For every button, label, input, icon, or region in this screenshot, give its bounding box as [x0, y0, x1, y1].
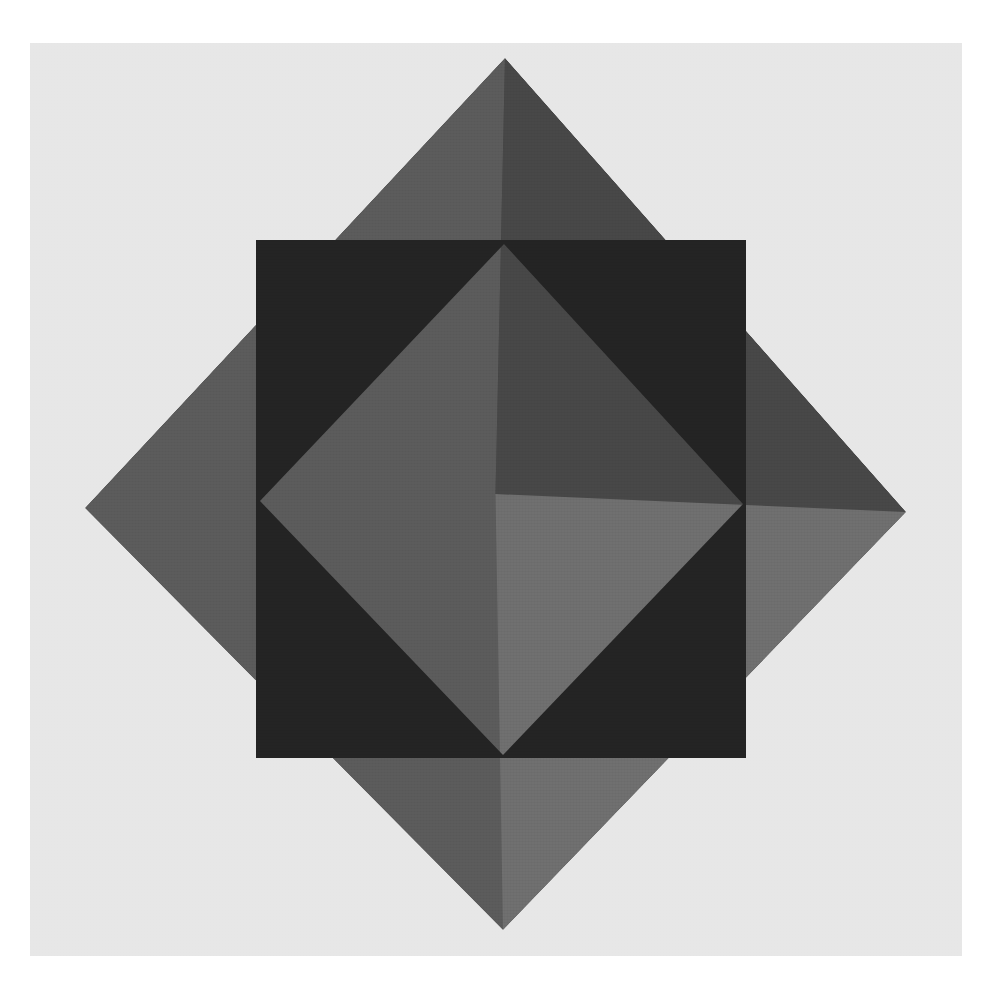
- screenshot-canvas: [0, 0, 990, 984]
- geometric-composition-svg: [30, 43, 962, 956]
- artboard-panel: [30, 43, 962, 956]
